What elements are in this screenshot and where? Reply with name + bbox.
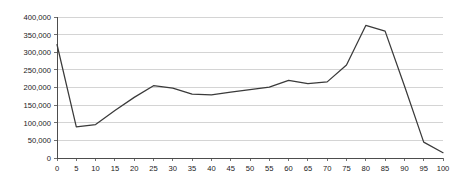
x-axis-tick-label: 75 bbox=[342, 164, 350, 173]
x-axis-tick-label: 45 bbox=[226, 164, 234, 173]
y-axis-tick-label: 50,000 bbox=[28, 136, 51, 145]
line-chart: 050,000100,000150,000200,000250,000300,0… bbox=[0, 0, 458, 185]
x-axis-tick-label: 55 bbox=[265, 164, 273, 173]
x-axis-tick-label: 0 bbox=[55, 164, 59, 173]
x-axis-tick-label: 25 bbox=[149, 164, 157, 173]
y-axis-tick-label: 250,000 bbox=[24, 66, 51, 75]
x-axis-tick-label: 10 bbox=[91, 164, 99, 173]
x-axis-tick-label: 90 bbox=[400, 164, 408, 173]
x-axis-tick-label: 40 bbox=[207, 164, 215, 173]
x-axis-tick-label: 15 bbox=[111, 164, 119, 173]
x-axis-tick-label: 65 bbox=[304, 164, 312, 173]
x-axis-tick-label: 30 bbox=[169, 164, 177, 173]
y-axis-tick-labels: 050,000100,000150,000200,000250,000300,0… bbox=[24, 13, 51, 163]
x-axis-tick-label: 60 bbox=[284, 164, 292, 173]
x-axis-tick-label: 80 bbox=[362, 164, 370, 173]
x-axis-tick-label: 70 bbox=[323, 164, 331, 173]
x-axis-tick-label: 5 bbox=[74, 164, 78, 173]
y-axis-tick-label: 100,000 bbox=[24, 119, 51, 128]
y-axis-tick-label: 400,000 bbox=[24, 13, 51, 22]
x-axis-tick-label: 85 bbox=[381, 164, 389, 173]
x-axis-tick-label: 35 bbox=[188, 164, 196, 173]
x-axis-tick-label: 20 bbox=[130, 164, 138, 173]
y-axis-tick-label: 350,000 bbox=[24, 31, 51, 40]
y-axis-tick-label: 300,000 bbox=[24, 48, 51, 57]
y-axis-tick-label: 200,000 bbox=[24, 83, 51, 92]
y-axis-tick-label: 0 bbox=[47, 154, 51, 163]
y-axis-tick-label: 150,000 bbox=[24, 101, 51, 110]
x-axis-tick-label: 50 bbox=[246, 164, 254, 173]
x-axis-tick-label: 95 bbox=[419, 164, 427, 173]
x-axis-tick-label: 100 bbox=[437, 164, 450, 173]
chart-canvas: 050,000100,000150,000200,000250,000300,0… bbox=[0, 0, 458, 185]
